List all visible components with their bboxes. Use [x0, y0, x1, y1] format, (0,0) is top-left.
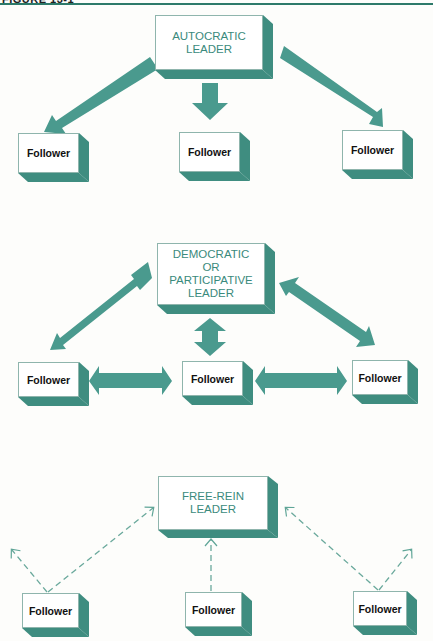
arrow-center-two-way	[194, 318, 226, 356]
follower-label: Follower	[27, 374, 70, 386]
arrow-left-down	[44, 57, 158, 134]
arrow-right-two-way	[279, 277, 375, 347]
follower-label: Follower	[27, 147, 70, 159]
follower-box-autocratic-right: Follower	[342, 130, 403, 170]
follower-box-free-rein-right: Follower	[353, 591, 407, 626]
follower-box-free-rein-left: Follower	[22, 593, 79, 628]
democratic-leader-box: DEMOCRATIC OR PARTICIPATIVE LEADER	[157, 243, 265, 305]
leader-label-line1: DEMOCRATIC	[173, 248, 249, 261]
arrow-right-down	[280, 46, 383, 127]
follower-box-democratic-center: Follower	[182, 361, 243, 396]
leader-label-line2: OR	[202, 261, 219, 274]
follower-label: Follower	[191, 373, 234, 385]
leader-label-line2: LEADER	[186, 43, 232, 56]
dashed-arrow-right-to-leader	[286, 508, 378, 590]
follower-label: Follower	[358, 603, 401, 615]
follower-label: Follower	[358, 372, 401, 384]
follower-box-autocratic-center: Follower	[179, 132, 240, 172]
follower-label: Follower	[351, 144, 394, 156]
leader-label-line4: LEADER	[188, 287, 234, 300]
follower-label: Follower	[29, 605, 72, 617]
diagram-graphics	[0, 0, 433, 641]
dashed-arrow-left-to-leader	[48, 508, 153, 592]
follower-label: Follower	[192, 604, 235, 616]
free-rein-leader-box: FREE-REIN LEADER	[158, 476, 268, 530]
autocratic-leader-box: AUTOCRATIC LEADER	[155, 15, 263, 70]
leader-label-line1: AUTOCRATIC	[172, 30, 246, 43]
arrow-left-two-way	[50, 262, 152, 350]
follower-box-free-rein-center: Follower	[185, 592, 242, 627]
arrow-horizontal-right	[255, 366, 347, 395]
leader-label-line1: FREE-REIN	[182, 490, 244, 503]
leader-label-line2: LEADER	[190, 503, 236, 516]
follower-box-autocratic-left: Follower	[18, 133, 79, 173]
follower-box-democratic-right: Follower	[352, 360, 408, 395]
dashed-arrow-right-outward	[379, 550, 411, 590]
leader-label-line3: PARTICIPATIVE	[169, 274, 253, 287]
follower-label: Follower	[188, 146, 231, 158]
dashed-arrow-left-outward	[12, 550, 47, 592]
arrow-center-down	[192, 83, 228, 120]
follower-box-democratic-left: Follower	[18, 362, 79, 397]
arrow-horizontal-left	[89, 366, 172, 395]
